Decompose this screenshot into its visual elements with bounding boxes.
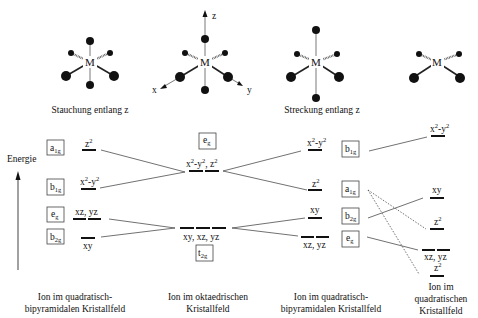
orbital-level-eg-set: x2-y2, z2 bbox=[186, 157, 219, 171]
orbital-level-xy: xy bbox=[81, 238, 95, 251]
molecule-square-planar: M bbox=[409, 51, 465, 83]
svg-text:x2-y2: x2-y2 bbox=[430, 122, 449, 134]
orbital-level-xy: xy bbox=[430, 185, 444, 198]
svg-text:x2-y2: x2-y2 bbox=[80, 175, 99, 187]
energy-arrow-icon bbox=[16, 171, 21, 180]
metal-label: M bbox=[85, 56, 95, 68]
orbital-level-xy: xy bbox=[308, 205, 322, 218]
svg-text:xz, yz: xz, yz bbox=[75, 207, 98, 217]
caption-compressed-line1: Ion im quadratisch- bbox=[38, 292, 112, 302]
molecule-octahedral: z x y M bbox=[152, 10, 252, 95]
column-square-planar: x2-y2 xy z2 xz, yz z2 bbox=[422, 122, 450, 276]
z-axis-arrow-icon bbox=[203, 10, 208, 17]
caption-compression: Stauchung entlang z bbox=[51, 105, 128, 115]
orbital-level-t2g-set: xy, xz, yz bbox=[180, 228, 226, 242]
symmetry-box-a1g: a1g bbox=[342, 181, 359, 197]
svg-text:xy, xz, yz: xy, xz, yz bbox=[183, 232, 219, 242]
caption-square-line2: quadratischen bbox=[415, 294, 468, 304]
orbital-level-z2: z2 bbox=[308, 177, 322, 190]
caption-square-line1: Ion im bbox=[428, 282, 454, 292]
orbital-level-x2-y2: x2-y2 bbox=[307, 136, 326, 150]
svg-text:xz, yz: xz, yz bbox=[303, 240, 326, 250]
orbital-level-x2-y2: x2-y2 bbox=[430, 122, 449, 136]
energy-axis: Energie bbox=[7, 154, 36, 270]
symmetry-box-t2g: t2g bbox=[196, 245, 213, 261]
symmetry-box-eg: eg bbox=[342, 231, 359, 247]
axis-z-label: z bbox=[212, 11, 216, 21]
svg-text:x2-y2, z2: x2-y2, z2 bbox=[186, 157, 217, 169]
caption-compressed-line2: bipyramidalen Kristallfeld bbox=[25, 304, 126, 314]
svg-text:z2: z2 bbox=[312, 177, 319, 189]
axis-y-label: y bbox=[247, 85, 252, 95]
metal-label: M bbox=[200, 56, 210, 68]
svg-text:xy: xy bbox=[432, 185, 442, 195]
caption-elongated-line2: bipyramidalen Kristallfeld bbox=[281, 304, 382, 314]
symmetry-box-b2g: b2g bbox=[342, 208, 359, 224]
orbital-level-z2-lower: z2 bbox=[430, 261, 444, 276]
orbital-level-z2-upper: z2 bbox=[430, 215, 444, 229]
symmetry-box-eg-oct: eg bbox=[199, 133, 216, 149]
energy-axis-label: Energie bbox=[7, 154, 36, 164]
molecule-compressed: M bbox=[61, 37, 119, 89]
symmetry-box-b1g: b1g bbox=[342, 141, 359, 157]
connectors-right bbox=[367, 137, 427, 274]
axis-x-label: x bbox=[152, 85, 157, 95]
caption-octahedral-line1: Ion im oktaedrischen bbox=[168, 292, 248, 302]
symmetry-box-eg: eg bbox=[47, 207, 64, 222]
svg-text:xy: xy bbox=[310, 205, 320, 215]
svg-text:x2-y2: x2-y2 bbox=[307, 136, 326, 148]
column-octahedral: eg x2-y2, z2 xy, xz, yz t2g bbox=[180, 133, 226, 261]
symmetry-box-b2g: b2g bbox=[47, 229, 64, 244]
svg-text:z2: z2 bbox=[85, 137, 92, 149]
x-axis-arrow-icon bbox=[160, 84, 167, 89]
column-compressed-bipyramidal: a1g b1g eg b2g z2 x2-y2 xz, yz bbox=[47, 137, 101, 251]
orbital-level-x2-y2: x2-y2 bbox=[80, 175, 99, 189]
connectors-middle bbox=[223, 151, 307, 236]
svg-text:xz, yz: xz, yz bbox=[424, 252, 447, 262]
orbital-level-xz-yz: xz, yz bbox=[422, 250, 450, 262]
orbital-level-xz-yz: xz, yz bbox=[73, 207, 101, 219]
caption-elongation: Streckung entlang z bbox=[284, 105, 359, 115]
symmetry-box-b1g: b1g bbox=[47, 179, 64, 195]
svg-text:z2: z2 bbox=[434, 261, 441, 273]
column-elongated-bipyramidal: x2-y2 z2 xy xz, yz b1g a1g b2g bbox=[301, 136, 359, 250]
caption-square-line3: Kristallfeld bbox=[419, 306, 463, 316]
y-axis-arrow-icon bbox=[237, 81, 243, 86]
molecule-elongated: M bbox=[286, 26, 344, 102]
svg-text:z2: z2 bbox=[434, 215, 441, 227]
orbital-level-z2: z2 bbox=[82, 137, 96, 150]
symmetry-box-a1g: a1g bbox=[47, 140, 64, 155]
metal-label: M bbox=[311, 56, 321, 68]
orbital-level-xz-yz: xz, yz bbox=[301, 237, 329, 250]
metal-label: M bbox=[432, 56, 442, 68]
svg-text:xy: xy bbox=[83, 241, 93, 251]
crystal-field-splitting-diagram: M Stauchung entlang z z x y M bbox=[0, 0, 478, 318]
caption-elongated-line1: Ion im quadratisch- bbox=[294, 292, 368, 302]
caption-octahedral-line2: Kristallfeld bbox=[186, 304, 230, 314]
connectors-left bbox=[100, 150, 185, 237]
